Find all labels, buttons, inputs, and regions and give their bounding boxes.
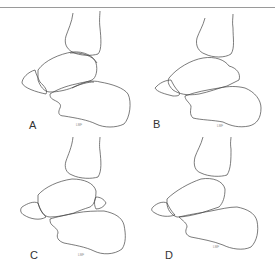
panel-label-a: A (29, 119, 36, 131)
foot-bones-drawing-c (0, 137, 137, 265)
panel-a: A LMF (0, 8, 137, 136)
foot-bones-drawing-d (137, 137, 274, 265)
signature-c: LMF (78, 253, 84, 257)
foot-bones-drawing-b (137, 8, 274, 136)
panel-b: B LMF (137, 8, 274, 136)
panel-label-c: C (30, 249, 38, 261)
panel-label-b: B (153, 118, 160, 130)
panel-d: D LMF (137, 137, 274, 265)
signature-b: LMF (217, 124, 223, 128)
panel-label-d: D (165, 249, 173, 261)
foot-bones-drawing-a (0, 8, 137, 136)
panel-c: C LMF (0, 137, 137, 265)
signature-d: LMF (213, 245, 219, 249)
signature-a: LMF (76, 123, 82, 127)
